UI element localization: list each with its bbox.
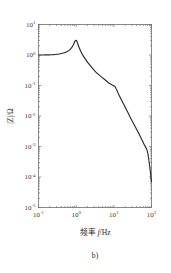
y-tick-label: 10-2 [24,112,36,121]
figure-caption: b) [92,251,99,260]
y-tick-label: 10-3 [24,142,36,151]
y-tick-label: 100 [26,51,36,60]
impedance-bode-plot: 10-1100101102 10-510-410-310-210-1100101… [0,0,171,273]
plot-frame [39,25,152,208]
y-tick-label: 101 [26,20,36,29]
x-axis-tick-labels: 10-1100101102 [33,210,157,219]
x-tick-label: 100 [71,210,81,219]
y-tick-label: 10-1 [24,81,36,90]
impedance-curve [39,40,152,182]
y-tick-label: 10-4 [24,173,36,182]
x-tick-label: 10-1 [33,210,45,219]
y-axis-tick-labels: 10-510-410-310-210-1100101 [24,20,36,212]
x-axis-title: 频率 f/Hz [80,227,112,237]
x-tick-label: 101 [109,210,119,219]
x-tick-label: 102 [147,210,157,219]
y-axis-title: |Z|/Ω [6,108,15,124]
figure-container: 10-1100101102 10-510-410-310-210-1100101… [0,0,171,273]
